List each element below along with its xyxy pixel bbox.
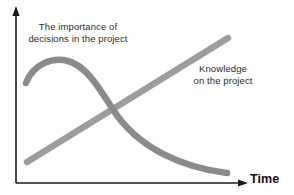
knowledge-annotation: Knowledge on the project xyxy=(182,63,264,86)
knowledge-line xyxy=(27,38,228,162)
x-axis-label: Time xyxy=(250,172,292,186)
y-axis-arrow-icon xyxy=(12,6,19,16)
x-axis-arrow-icon xyxy=(238,179,248,186)
importance-annotation: The importance of decisions in the proje… xyxy=(18,21,138,44)
diagram-canvas: The importance of decisions in the proje… xyxy=(0,0,294,195)
